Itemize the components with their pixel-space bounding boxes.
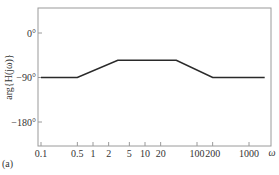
x-tick-label: 0.5 [71, 148, 84, 159]
x-tick-label: 5 [127, 148, 132, 159]
x-tick-label: 10 [140, 148, 150, 159]
y-axis-label: arg{H(jω)} [3, 54, 15, 99]
x-axis-ticks: 0.10.512510201002001000 [35, 142, 259, 159]
x-tick-label: 1 [91, 148, 96, 159]
y-tick-label: −90° [16, 72, 36, 83]
x-tick-label: 1000 [239, 148, 259, 159]
x-tick-label: 0.1 [35, 148, 48, 159]
x-tick-label: 200 [205, 148, 220, 159]
x-tick-label: 20 [156, 148, 166, 159]
y-tick-label: −180° [11, 117, 36, 128]
panel-label: (a) [2, 158, 13, 169]
phase-line [41, 60, 265, 77]
bode-phase-chart: 0°−90°−180° 0.10.512510201002001000 arg{… [0, 0, 279, 175]
x-tick-label: 100 [190, 148, 205, 159]
y-axis-ticks: 0°−90°−180° [11, 28, 42, 128]
x-axis-label: ω [268, 147, 275, 158]
x-tick-label: 2 [106, 148, 111, 159]
y-tick-label: 0° [27, 28, 36, 39]
